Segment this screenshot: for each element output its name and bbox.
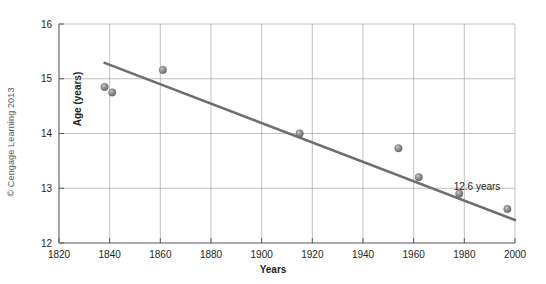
- svg-text:1860: 1860: [149, 249, 172, 260]
- x-axis-title: Years: [0, 264, 546, 275]
- svg-text:1880: 1880: [200, 249, 223, 260]
- scatter-plot: 1820184018601880190019201940196019802000…: [0, 0, 546, 284]
- svg-text:1960: 1960: [403, 249, 426, 260]
- svg-text:2000: 2000: [504, 249, 527, 260]
- svg-text:1940: 1940: [352, 249, 375, 260]
- svg-text:12: 12: [41, 238, 53, 249]
- svg-text:1900: 1900: [251, 249, 274, 260]
- svg-text:14: 14: [41, 128, 53, 139]
- svg-text:1920: 1920: [301, 249, 324, 260]
- y-axis-tick-labels: 1213141516: [41, 19, 53, 249]
- svg-text:12.6 years: 12.6 years: [454, 181, 501, 192]
- chart-annotations: 12.6 years: [454, 181, 501, 192]
- x-axis-tick-labels: 1820184018601880190019201940196019802000: [48, 249, 527, 260]
- svg-text:13: 13: [41, 183, 53, 194]
- svg-text:15: 15: [41, 73, 53, 84]
- svg-text:1840: 1840: [99, 249, 122, 260]
- svg-text:1980: 1980: [453, 249, 476, 260]
- svg-text:16: 16: [41, 19, 53, 30]
- svg-text:1820: 1820: [48, 249, 71, 260]
- chart-figure: © Cengage Learning 2013 Age (years) 1820…: [0, 0, 546, 284]
- trend-line: [105, 63, 515, 220]
